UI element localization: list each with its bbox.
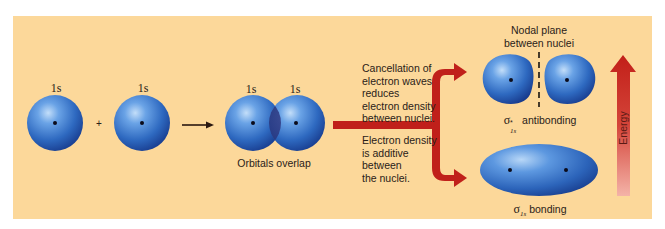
- nodal-plane-label: Nodal plane between nuclei: [504, 24, 574, 49]
- antibonding-orbital: [483, 52, 596, 107]
- antibonding-explanation: Cancellation of electron waves reduces e…: [362, 62, 436, 125]
- antibonding-name: antibonding: [522, 114, 576, 126]
- bonding-orbital: [480, 144, 598, 196]
- overlap-label-1s-left: 1s: [246, 82, 257, 97]
- overlapping-orbitals: [225, 95, 325, 151]
- overlap-label-1s-right: 1s: [290, 82, 301, 97]
- plus-sign: +: [96, 118, 102, 131]
- overlap-caption: Orbitals overlap: [237, 157, 311, 170]
- orbital-label-1s-right: 1s: [138, 81, 149, 96]
- bonding-explanation: Electron density is additive between the…: [362, 134, 437, 184]
- bonding-subscript: 1s: [520, 210, 526, 218]
- antibonding-subscript: 1s: [510, 125, 516, 138]
- orbital-label-1s-left: 1s: [51, 81, 62, 96]
- atomic-orbital-1s-right: [114, 95, 170, 151]
- reaction-arrow-icon: [182, 122, 214, 129]
- bonding-name: bonding: [529, 203, 566, 215]
- bonding-label: σ1s bonding: [514, 203, 567, 221]
- atomic-orbital-1s-left: [27, 95, 83, 151]
- energy-label: Energy: [617, 111, 629, 144]
- antibonding-label: σ*1s antibonding: [504, 114, 577, 127]
